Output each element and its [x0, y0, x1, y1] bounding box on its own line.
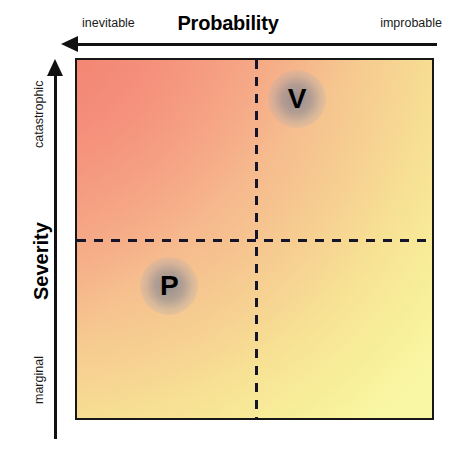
- risk-marker-v-label: V: [288, 85, 307, 113]
- probability-axis-arrow-icon: [61, 36, 78, 52]
- risk-marker-p: P: [140, 257, 198, 315]
- risk-matrix-diagram: inevitable Probability improbable catast…: [0, 0, 456, 455]
- severity-axis-title: Severity: [30, 222, 53, 300]
- probability-axis-line: [75, 43, 437, 46]
- risk-marker-p-label: P: [160, 272, 179, 300]
- probability-axis-right-label: improbable: [380, 16, 442, 30]
- severity-axis-bottom-label: marginal: [32, 356, 46, 404]
- severity-axis-arrow-icon: [47, 59, 63, 76]
- severity-axis-top-label: catastrophic: [32, 81, 46, 148]
- risk-matrix-plot-area: V P: [75, 58, 434, 420]
- quadrant-divider-horizontal: [77, 239, 432, 242]
- severity-axis-line: [54, 74, 57, 439]
